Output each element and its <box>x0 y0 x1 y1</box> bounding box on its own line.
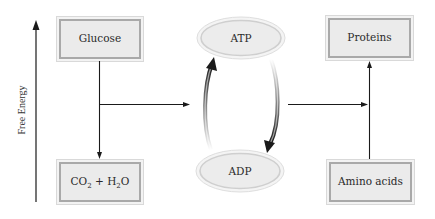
axis-arrow-icon <box>33 20 40 30</box>
adp-to-atp-arc <box>205 57 217 150</box>
co2-h2o-box: CO2 + H2O <box>57 160 144 205</box>
energy-use-arrow <box>288 102 368 107</box>
free-energy-axis: Free Energy <box>16 20 40 202</box>
energy-release-arrow <box>100 102 191 107</box>
adp-label: ADP <box>227 165 251 177</box>
amino-to-proteins-arrow <box>367 61 372 159</box>
amino-acids-box: Amino acids <box>327 160 415 205</box>
atp-to-adp-arc <box>264 59 278 153</box>
diagram-canvas: Free Energy Glucose CO2 + H2O Proteins A… <box>0 0 435 219</box>
atp-label: ATP <box>229 32 251 44</box>
arrowhead-up-icon <box>206 57 217 71</box>
adp-ellipse: ADP <box>196 150 284 192</box>
arrowhead-down-curved-icon <box>264 140 275 153</box>
amino-acids-label: Amino acids <box>337 175 403 187</box>
axis-label: Free Energy <box>16 86 27 135</box>
proteins-box: Proteins <box>326 16 414 61</box>
atp-ellipse: ATP <box>197 17 285 59</box>
arrowhead-right-icon <box>361 102 368 107</box>
glucose-to-co2-arrow <box>97 61 102 159</box>
arrowhead-right-icon <box>183 102 190 107</box>
glucose-label: Glucose <box>79 32 121 44</box>
arrowhead-down-icon <box>97 152 102 159</box>
arrowhead-up-icon <box>367 61 372 68</box>
proteins-label: Proteins <box>347 31 391 43</box>
glucose-box: Glucose <box>57 17 144 62</box>
